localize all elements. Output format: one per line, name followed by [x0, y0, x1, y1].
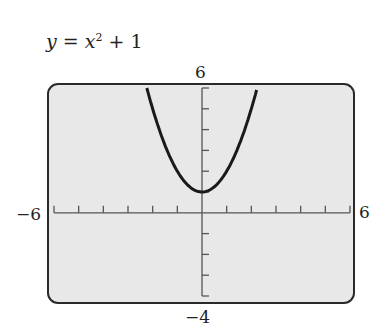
ymin-label: −4: [185, 307, 210, 327]
ymax-label: 6: [195, 62, 206, 82]
xmin-label: −6: [16, 204, 41, 224]
xmax-label: 6: [359, 202, 370, 222]
graph-screen: [0, 0, 382, 336]
